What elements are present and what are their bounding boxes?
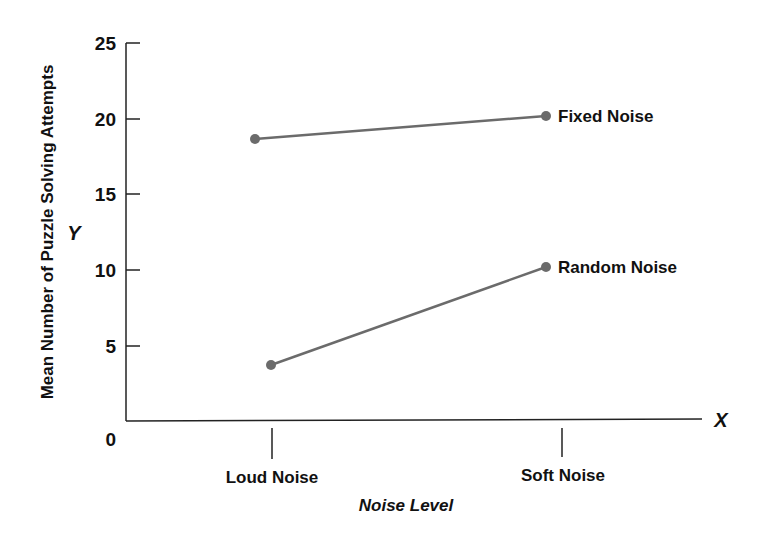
x-axis-letter: X	[713, 409, 729, 431]
data-point	[250, 134, 260, 144]
x-category-label: Loud Noise	[226, 468, 319, 487]
x-axis-title: Noise Level	[359, 496, 455, 515]
series-label: Fixed Noise	[558, 107, 653, 126]
data-point	[541, 111, 551, 121]
x-axis	[126, 419, 702, 421]
y-tick-label: 0	[105, 429, 116, 450]
y-ticks	[126, 43, 140, 346]
x-ticks	[272, 428, 562, 459]
series-label: Random Noise	[558, 258, 677, 277]
series-fixed-noise: Fixed Noise	[250, 107, 653, 144]
data-point	[541, 262, 551, 272]
line-chart: 25 20 15 10 5 0 Mean Number of Puzzle So…	[0, 0, 768, 536]
y-tick-label: 15	[95, 184, 117, 205]
series-random-noise: Random Noise	[266, 258, 677, 370]
y-tick-label: 10	[95, 260, 116, 281]
data-point	[266, 360, 276, 370]
y-tick-label: 5	[105, 336, 116, 357]
x-category-label: Soft Noise	[521, 466, 605, 485]
y-axis-title: Mean Number of Puzzle Solving Attempts	[38, 65, 57, 400]
y-tick-label: 25	[95, 33, 117, 54]
y-axis-letter: Y	[67, 222, 82, 244]
y-tick-labels: 25 20 15 10 5 0	[95, 33, 117, 450]
y-tick-label: 20	[95, 109, 116, 130]
